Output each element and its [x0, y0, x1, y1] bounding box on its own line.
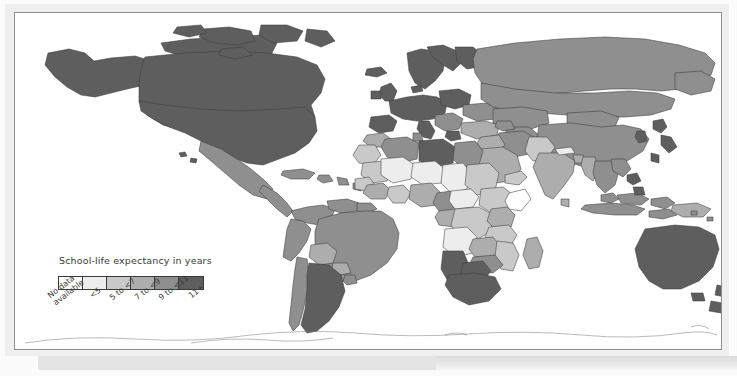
legend-labels: No data available <5 5 to <7 7 to <9 9 t…	[44, 291, 234, 331]
figure-root: .cy { stroke:#3c3c3c; stroke-width:0.55;…	[0, 0, 737, 376]
map-plate: .cy { stroke:#3c3c3c; stroke-width:0.55;…	[14, 12, 722, 350]
map-legend: School-life expectancy in years No data …	[44, 255, 234, 325]
